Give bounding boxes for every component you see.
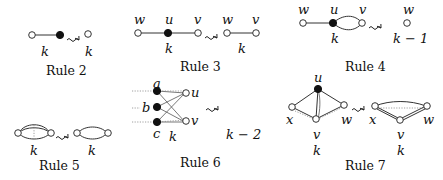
label-w: w bbox=[423, 112, 434, 127]
label-v: v bbox=[194, 12, 202, 27]
node-open bbox=[15, 130, 22, 137]
rule-3: w u v k w v k Rule 3 bbox=[134, 12, 260, 74]
rule-title: Rule 2 bbox=[46, 63, 87, 78]
reduces-to-arrow-icon bbox=[369, 27, 381, 30]
label-b: b bbox=[142, 100, 150, 115]
param-label: k − 2 bbox=[226, 127, 261, 142]
param-label: k bbox=[397, 143, 405, 158]
label-u: u bbox=[165, 12, 173, 27]
rule-title: Rule 7 bbox=[345, 158, 386, 173]
param-label: k − 1 bbox=[393, 31, 428, 46]
node-u bbox=[183, 90, 190, 97]
reduces-to-arrow-icon bbox=[56, 137, 68, 140]
label-w: w bbox=[341, 112, 352, 127]
label-x: x bbox=[286, 112, 294, 127]
label-v: v bbox=[191, 113, 199, 128]
label-c: c bbox=[153, 126, 161, 141]
rule-4: w u v k w k − 1 Rule 4 bbox=[298, 2, 428, 74]
label-w: w bbox=[298, 2, 309, 17]
node-v bbox=[195, 30, 202, 37]
param-label: k bbox=[165, 41, 173, 56]
label-w: w bbox=[222, 12, 233, 27]
node-w bbox=[135, 30, 142, 37]
node-open bbox=[85, 31, 92, 38]
node-v bbox=[359, 20, 366, 27]
label-v: v bbox=[359, 2, 367, 17]
node-u bbox=[164, 29, 171, 36]
rule-5: k k Rule 5 bbox=[15, 125, 112, 173]
rule-title: Rule 6 bbox=[180, 155, 221, 170]
node-v bbox=[253, 30, 260, 37]
reduction-rules-diagram: k k Rule 2 w u v k w v k Rule 3 w u v k bbox=[0, 0, 443, 180]
param-label: k bbox=[88, 143, 96, 158]
label-v: v bbox=[313, 127, 321, 142]
reduces-to-arrow-icon bbox=[206, 109, 218, 112]
label-v: v bbox=[252, 12, 260, 27]
label-v: v bbox=[397, 127, 405, 142]
label-u: u bbox=[330, 2, 338, 17]
node-u bbox=[314, 85, 321, 92]
node-b bbox=[153, 103, 160, 110]
node-open bbox=[29, 32, 36, 39]
node-c bbox=[153, 118, 160, 125]
label-x: x bbox=[369, 112, 377, 127]
rule-title: Rule 3 bbox=[180, 59, 221, 74]
reduces-to-arrow-icon bbox=[67, 39, 79, 42]
node-open bbox=[74, 130, 81, 137]
label-u: u bbox=[191, 85, 199, 100]
param-label: k bbox=[169, 129, 177, 144]
rule-6: a b c u v k k − 2 Rule 6 bbox=[132, 76, 261, 170]
param-label: k bbox=[41, 44, 49, 59]
rule-7: u x v w k x v w k Rule 7 bbox=[286, 70, 434, 173]
reduces-to-arrow-icon bbox=[352, 109, 364, 112]
param-label: k bbox=[238, 41, 246, 56]
node-v bbox=[183, 118, 190, 125]
node-open bbox=[48, 130, 55, 137]
node-filled bbox=[56, 31, 63, 38]
node-v bbox=[313, 116, 320, 123]
node-w bbox=[404, 20, 411, 27]
node-x bbox=[289, 104, 296, 111]
node-w bbox=[341, 102, 348, 109]
rule-title: Rule 5 bbox=[39, 158, 80, 173]
node-u bbox=[329, 19, 336, 26]
label-u: u bbox=[314, 70, 322, 85]
reduces-to-arrow-icon bbox=[205, 37, 217, 40]
label-w: w bbox=[134, 12, 145, 27]
node-x bbox=[372, 103, 379, 110]
label-w: w bbox=[403, 2, 414, 17]
label-a: a bbox=[153, 76, 161, 91]
param-label: k bbox=[30, 143, 38, 158]
node-v bbox=[397, 117, 404, 124]
param-label: k bbox=[331, 31, 339, 46]
node-open bbox=[105, 130, 112, 137]
node-w bbox=[224, 30, 231, 37]
param-label: k bbox=[85, 44, 93, 59]
rule-title: Rule 4 bbox=[345, 59, 386, 74]
node-w bbox=[424, 103, 431, 110]
node-w bbox=[300, 20, 307, 27]
param-label: k bbox=[313, 143, 321, 158]
rule-2: k k Rule 2 bbox=[29, 31, 93, 78]
